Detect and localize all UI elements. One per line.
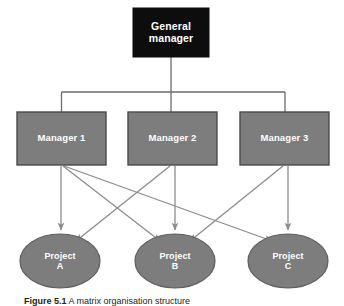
general-manager-box[interactable] <box>133 8 209 57</box>
figure-caption-label: Figure 5.1 <box>24 296 67 306</box>
hierarchy-connectors <box>62 57 286 112</box>
diagram-canvas <box>0 0 344 306</box>
figure-caption-text: A matrix organisation structure <box>67 296 191 306</box>
matrix-organisation-figure: General manager Manager 1 Manager 2 Mana… <box>0 0 344 306</box>
manager-3-box[interactable] <box>240 112 329 165</box>
arrow-manager-1-to-project-b <box>63 166 160 241</box>
arrow-manager-3-to-project-b <box>190 166 283 241</box>
project-c-ellipse[interactable] <box>248 234 328 288</box>
manager-2-box[interactable] <box>128 112 217 165</box>
figure-caption: Figure 5.1 A matrix organisation structu… <box>24 296 324 306</box>
manager-1-box[interactable] <box>17 112 106 165</box>
arrow-manager-2-to-project-a <box>76 166 170 241</box>
arrow-manager-1-to-project-c <box>64 166 272 241</box>
project-b-ellipse[interactable] <box>135 234 215 288</box>
assignment-arrows <box>61 166 288 241</box>
project-a-ellipse[interactable] <box>20 234 100 288</box>
